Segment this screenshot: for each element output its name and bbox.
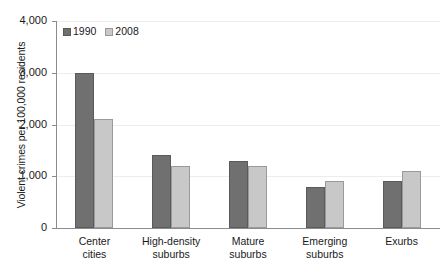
- legend-label-1990: 1990: [73, 26, 96, 37]
- plot-area: [56, 21, 440, 228]
- x-axis-category-label-line: Exurbs: [363, 235, 440, 248]
- y-axis-tick-label: 4,000: [3, 15, 47, 26]
- bar-high-density-suburbs-2008: [171, 166, 190, 228]
- x-axis-category-label-line: suburbs: [286, 248, 363, 261]
- gridline: [57, 73, 440, 74]
- bar-center-cities-2008: [94, 119, 113, 228]
- bar-emerging-suburbs-2008: [325, 181, 344, 228]
- x-axis-category-label-line: Center: [56, 235, 133, 248]
- y-axis-tick: [52, 176, 56, 177]
- legend-item-2008: 2008: [105, 26, 138, 37]
- bar-mature-suburbs-1990: [229, 161, 248, 228]
- x-axis-category-label-line: Mature: [210, 235, 287, 248]
- legend-label-2008: 2008: [115, 26, 138, 37]
- x-axis-line: [56, 228, 440, 229]
- x-axis-category-label: Exurbs: [363, 235, 440, 248]
- y-axis-tick: [52, 21, 56, 22]
- legend-swatch-2008-icon: [105, 28, 113, 36]
- y-axis-tick-labels: 01,0002,0003,0004,000: [0, 0, 47, 274]
- gridline: [57, 125, 440, 126]
- x-axis-category-label: Centercities: [56, 235, 133, 261]
- bar-mature-suburbs-2008: [248, 166, 267, 228]
- bar-exurbs-1990: [383, 181, 402, 228]
- gridline: [57, 21, 440, 22]
- x-axis-category-label: High-densitysuburbs: [133, 235, 210, 261]
- y-axis-tick-label: 2,000: [3, 119, 47, 130]
- x-axis-category-label-line: High-density: [133, 235, 210, 248]
- x-axis-category-label: Emergingsuburbs: [286, 235, 363, 261]
- x-axis-category-label-line: cities: [56, 248, 133, 261]
- y-axis-tick-label: 0: [3, 222, 47, 233]
- y-axis-tick: [52, 228, 56, 229]
- x-axis-category-label: Maturesuburbs: [210, 235, 287, 261]
- bar-chart: Violent crimes per 100,000 residents 01,…: [0, 0, 444, 274]
- legend-item-1990: 1990: [63, 26, 96, 37]
- y-axis-tick-label: 3,000: [3, 67, 47, 78]
- x-axis-category-label-line: suburbs: [210, 248, 287, 261]
- y-axis-tick-label: 1,000: [3, 170, 47, 181]
- bar-emerging-suburbs-1990: [306, 187, 325, 228]
- legend-swatch-1990-icon: [63, 28, 71, 36]
- y-axis-tick: [52, 73, 56, 74]
- x-axis-category-label-line: Emerging: [286, 235, 363, 248]
- bar-high-density-suburbs-1990: [152, 155, 171, 228]
- bar-exurbs-2008: [402, 171, 421, 228]
- x-axis-category-label-line: suburbs: [133, 248, 210, 261]
- chart-legend: 1990 2008: [63, 26, 139, 37]
- bar-center-cities-1990: [75, 73, 94, 228]
- y-axis-tick: [52, 125, 56, 126]
